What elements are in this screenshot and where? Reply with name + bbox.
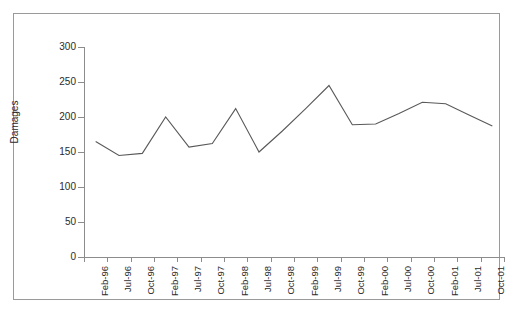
x-axis-tick <box>504 257 505 262</box>
line-series-damages <box>14 14 501 301</box>
chart-frame: Damages 050100150200250300 Feb-96Jul-96O… <box>13 13 500 300</box>
